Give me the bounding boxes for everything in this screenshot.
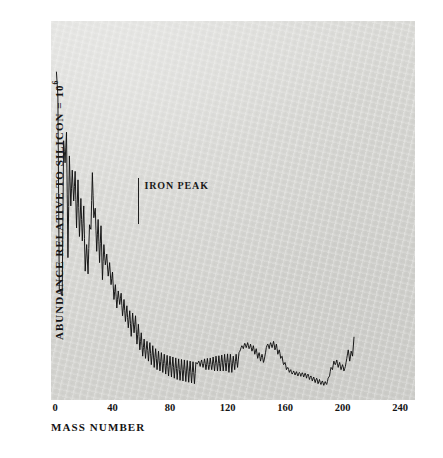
plot-area: IRON PEAK — [51, 21, 415, 400]
x-tick-label-0: 0 — [52, 403, 57, 414]
x-tick-label-6: 240 — [392, 403, 408, 414]
y-axis-title: ABUNDANCE RELATIVE TO SILICON = 106 — [51, 55, 65, 365]
x-tick-label-5: 200 — [335, 403, 351, 414]
iron-peak-annotation: IRON PEAK — [144, 180, 209, 191]
y-axis-tick-labels: 1010108106104102110-2 — [0, 0, 48, 458]
abundance-curve-plot — [51, 21, 415, 400]
abundance-chart-figure: IRON PEAK 1010108106104102110-2 04080120… — [0, 0, 443, 458]
abundance-curve-line — [56, 72, 354, 385]
x-tick-label-4: 160 — [277, 403, 293, 414]
x-tick-label-1: 40 — [107, 403, 118, 414]
x-axis-title: MASS NUMBER — [51, 421, 145, 433]
x-tick-label-3: 120 — [220, 403, 236, 414]
x-tick-label-2: 80 — [165, 403, 176, 414]
iron-peak-leader-line — [138, 178, 139, 224]
